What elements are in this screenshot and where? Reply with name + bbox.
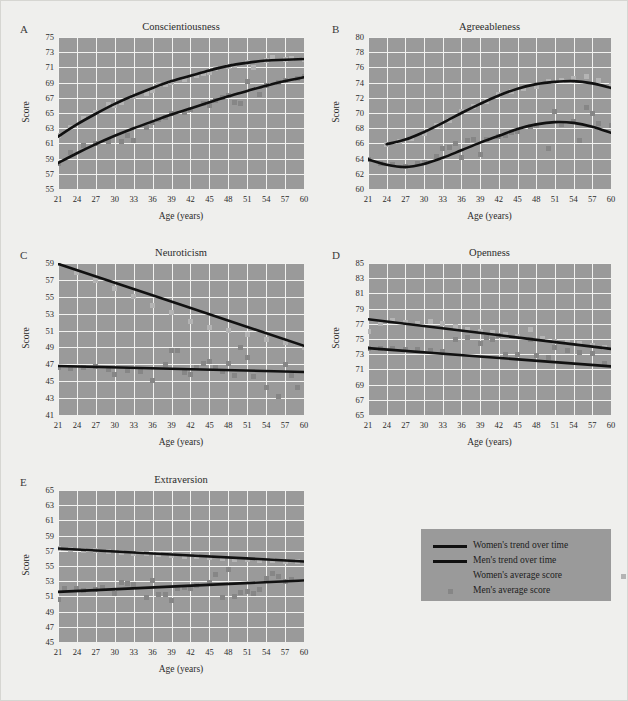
y-tick-label: 60 bbox=[342, 185, 364, 194]
panel-title-E: Extraversion bbox=[58, 474, 304, 485]
legend-square-swatch bbox=[448, 589, 453, 594]
panel-letter-A: A bbox=[20, 23, 28, 35]
legend-box: Women's trend over timeMen's trend over … bbox=[421, 529, 611, 601]
y-tick-label: 55 bbox=[32, 185, 54, 194]
y-tick-label: 66 bbox=[342, 139, 364, 148]
trend-curves-C bbox=[58, 263, 304, 415]
y-tick-label: 75 bbox=[342, 335, 364, 344]
y-tick-label: 78 bbox=[342, 48, 364, 57]
y-tick-label: 57 bbox=[32, 547, 54, 556]
y-tick-label: 43 bbox=[32, 394, 54, 403]
panel-title-C: Neuroticism bbox=[58, 247, 304, 258]
trend-curves-E bbox=[58, 490, 304, 642]
y-tick-label: 85 bbox=[342, 259, 364, 268]
plot-area-C bbox=[58, 263, 304, 415]
trend-line-women bbox=[58, 264, 304, 346]
legend-item-label: Men's trend over time bbox=[473, 556, 556, 566]
legend-item-label: Women's trend over time bbox=[473, 541, 568, 551]
y-tick-label: 83 bbox=[342, 274, 364, 283]
y-tick-label: 61 bbox=[32, 516, 54, 525]
x-tick-label: 60 bbox=[292, 648, 316, 657]
y-tick-label: 61 bbox=[32, 139, 54, 148]
x-axis-label-C: Age (years) bbox=[58, 437, 304, 447]
y-axis-label-B: Score bbox=[331, 92, 341, 132]
y-tick-label: 65 bbox=[32, 486, 54, 495]
panel-title-A: Conscientiousness bbox=[58, 21, 304, 32]
x-tick-label: 60 bbox=[292, 195, 316, 204]
figure-canvas: AConscientiousness5557596163656769717375… bbox=[0, 0, 628, 701]
y-tick-label: 55 bbox=[32, 293, 54, 302]
panel-letter-B: B bbox=[332, 23, 339, 35]
y-tick-label: 79 bbox=[342, 305, 364, 314]
y-tick-label: 59 bbox=[32, 259, 54, 268]
y-tick-label: 51 bbox=[32, 327, 54, 336]
trend-curves-A bbox=[58, 37, 304, 189]
y-tick-label: 67 bbox=[32, 94, 54, 103]
y-tick-label: 55 bbox=[32, 562, 54, 571]
panel-letter-E: E bbox=[20, 476, 27, 488]
y-tick-label: 63 bbox=[32, 501, 54, 510]
trend-line-women bbox=[58, 59, 304, 137]
trend-line-men bbox=[58, 580, 304, 591]
y-tick-label: 41 bbox=[32, 411, 54, 420]
y-tick-label: 67 bbox=[342, 396, 364, 405]
y-tick-label: 72 bbox=[342, 94, 364, 103]
y-tick-label: 49 bbox=[32, 343, 54, 352]
x-axis-label-D: Age (years) bbox=[368, 437, 611, 447]
trend-line-men bbox=[368, 122, 611, 167]
y-tick-label: 51 bbox=[32, 592, 54, 601]
y-axis-label-E: Score bbox=[21, 545, 31, 585]
panel-title-D: Openness bbox=[368, 247, 611, 258]
x-tick-label: 60 bbox=[599, 421, 623, 430]
x-tick-label: 60 bbox=[292, 421, 316, 430]
legend-item-label: Women's average score bbox=[473, 571, 562, 581]
y-tick-label: 75 bbox=[32, 33, 54, 42]
y-tick-label: 53 bbox=[32, 310, 54, 319]
y-tick-label: 68 bbox=[342, 124, 364, 133]
panel-title-B: Agreeableness bbox=[368, 21, 611, 32]
y-tick-label: 81 bbox=[342, 289, 364, 298]
x-tick-label: 60 bbox=[599, 195, 623, 204]
plot-area-B bbox=[368, 37, 611, 189]
trend-line-women bbox=[368, 319, 611, 349]
y-tick-label: 65 bbox=[32, 109, 54, 118]
y-tick-label: 71 bbox=[342, 365, 364, 374]
panel-letter-D: D bbox=[332, 249, 340, 261]
y-tick-label: 57 bbox=[32, 170, 54, 179]
y-tick-label: 57 bbox=[32, 276, 54, 285]
trend-curves-B bbox=[368, 37, 611, 189]
y-tick-label: 69 bbox=[342, 381, 364, 390]
y-tick-label: 53 bbox=[32, 577, 54, 586]
trend-line-men bbox=[58, 77, 304, 163]
y-tick-label: 64 bbox=[342, 155, 364, 164]
plot-area-D bbox=[368, 263, 611, 415]
y-tick-label: 45 bbox=[32, 638, 54, 647]
trend-curves-D bbox=[368, 263, 611, 415]
legend-square-swatch bbox=[621, 574, 626, 579]
legend-line-swatch bbox=[433, 545, 467, 548]
plot-area-A bbox=[58, 37, 304, 189]
x-axis-label-E: Age (years) bbox=[58, 664, 304, 674]
y-axis-label-D: Score bbox=[331, 318, 341, 358]
x-axis-label-A: Age (years) bbox=[58, 211, 304, 221]
y-tick-label: 71 bbox=[32, 63, 54, 72]
legend-line-swatch bbox=[433, 560, 467, 563]
plot-area-E bbox=[58, 490, 304, 642]
trend-line-men bbox=[368, 348, 611, 366]
y-tick-label: 70 bbox=[342, 109, 364, 118]
y-tick-label: 47 bbox=[32, 623, 54, 632]
y-tick-label: 77 bbox=[342, 320, 364, 329]
legend-item-label: Men's average score bbox=[473, 586, 550, 596]
y-tick-label: 49 bbox=[32, 608, 54, 617]
trend-line-women bbox=[58, 549, 304, 562]
y-tick-label: 76 bbox=[342, 63, 364, 72]
y-tick-label: 63 bbox=[32, 124, 54, 133]
y-tick-label: 59 bbox=[32, 532, 54, 541]
y-tick-label: 69 bbox=[32, 79, 54, 88]
y-axis-label-A: Score bbox=[21, 92, 31, 132]
y-tick-label: 62 bbox=[342, 170, 364, 179]
y-tick-label: 47 bbox=[32, 360, 54, 369]
y-tick-label: 74 bbox=[342, 79, 364, 88]
x-axis-label-B: Age (years) bbox=[368, 211, 611, 221]
y-tick-label: 73 bbox=[342, 350, 364, 359]
